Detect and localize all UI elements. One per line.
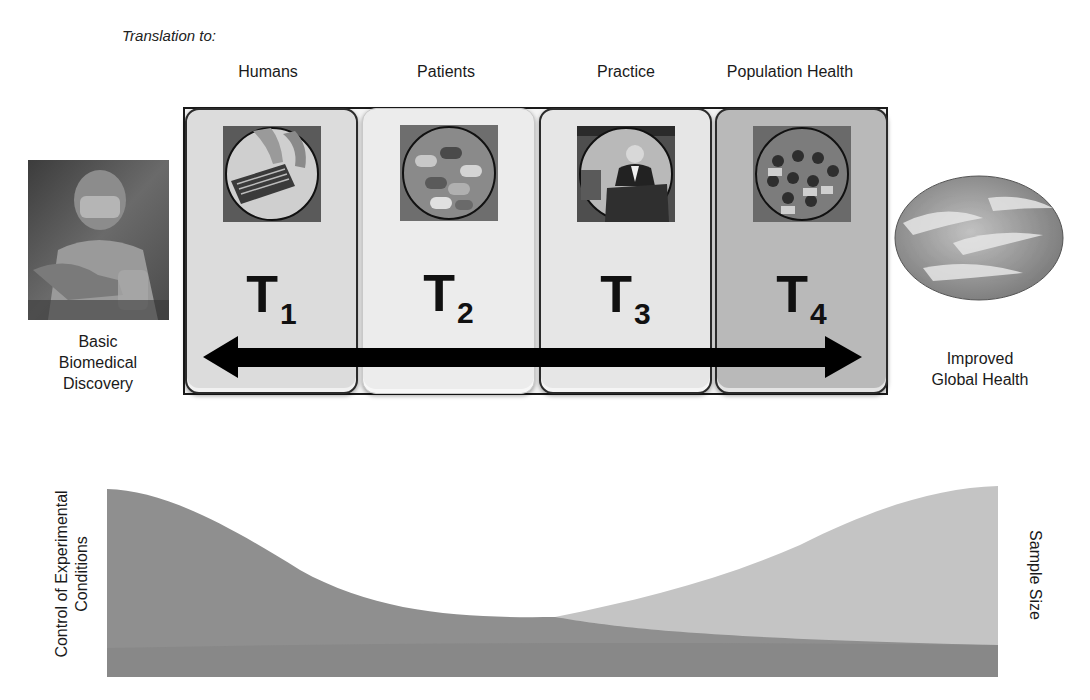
right-endpoint-line-1: Improved [905, 348, 1055, 369]
left-endpoint-line-1: Basic [18, 331, 178, 352]
phase-letter: T [246, 265, 278, 323]
left-endpoint-line-2: Biomedical [18, 352, 178, 373]
presenter-podium-photo [577, 126, 675, 222]
baseline-band [107, 643, 998, 677]
pills-photo [400, 125, 498, 221]
left-axis-label-line-1: Control of Experimental [52, 464, 72, 684]
column-label-practice: Practice [536, 63, 716, 81]
phase-number: 3 [634, 297, 651, 330]
keyboard-hands-photo [223, 126, 321, 222]
bidirectional-arrow-icon [200, 330, 870, 385]
phase-label-t4: T4 [717, 268, 886, 329]
phase-number: 4 [810, 297, 827, 330]
phase-number: 2 [457, 296, 474, 329]
right-endpoint-line-2: Global Health [905, 369, 1055, 390]
left-endpoint-line-3: Discovery [18, 373, 178, 394]
column-label-patients: Patients [356, 63, 536, 81]
phase-letter: T [600, 265, 632, 323]
column-label-humans: Humans [178, 63, 358, 81]
phase-number: 1 [280, 297, 297, 330]
right-axis-label: Sample Size [1025, 515, 1045, 635]
right-endpoint-label: Improved Global Health [905, 348, 1055, 390]
globe-icon [893, 173, 1066, 303]
left-axis-label-line-2: Conditions [72, 464, 92, 684]
phase-label-t3: T3 [541, 268, 710, 329]
phase-label-t1: T1 [187, 268, 356, 329]
intro-label: Translation to: [122, 27, 216, 44]
area-chart [0, 460, 1090, 700]
left-endpoint-label: Basic Biomedical Discovery [18, 331, 178, 394]
left-axis-label: Control of Experimental Conditions [52, 464, 92, 684]
scientist-photo [28, 160, 169, 320]
column-label-population-health: Population Health [700, 63, 880, 81]
phase-label-t2: T2 [363, 267, 534, 328]
phase-letter: T [776, 265, 808, 323]
crowd-photo [753, 126, 851, 222]
phase-letter: T [423, 264, 455, 322]
